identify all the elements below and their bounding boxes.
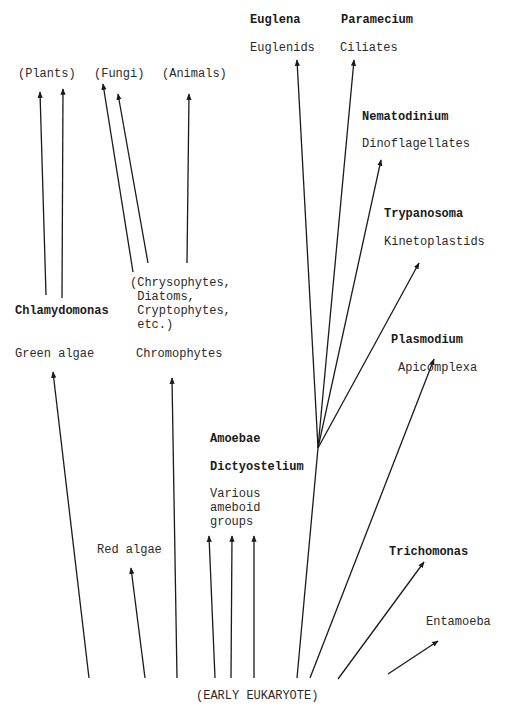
label-animals: (Animals)	[162, 67, 227, 81]
label-entamoeba: Entamoeba	[426, 615, 491, 629]
label-plasmodium: Plasmodium	[391, 333, 463, 347]
label-green-algae: Green algae	[15, 347, 94, 361]
label-amoebae: Amoebae	[210, 432, 260, 446]
branch-dinoflagellates	[318, 160, 381, 448]
branch-fungi-2	[118, 94, 148, 263]
branch-animals	[187, 94, 189, 263]
branch-plants-2	[62, 89, 63, 298]
branch-ameboid-1	[209, 536, 215, 678]
branch-chromophytes	[172, 378, 177, 678]
label-paramecium: Paramecium	[341, 13, 413, 27]
label-chlamydomonas: Chlamydomonas	[15, 304, 109, 318]
label-kinetoplastids: Kinetoplastids	[384, 235, 485, 249]
branch-plants-1	[40, 92, 46, 295]
label-trichomonas: Trichomonas	[389, 545, 468, 559]
label-euglenids: Euglenids	[250, 41, 315, 55]
label-ciliates: Ciliates	[340, 41, 398, 55]
branch-euglenids	[297, 60, 318, 448]
branch-fungi-1	[103, 84, 133, 272]
branch-entamoeba	[388, 641, 438, 674]
label-trypanosoma: Trypanosoma	[384, 207, 463, 221]
branch-red-algae	[131, 568, 145, 678]
branch-green-algae	[53, 372, 89, 678]
trunk-to-junction	[297, 448, 318, 678]
branch-apicomplexa	[310, 359, 434, 678]
label-chromophytes: Chromophytes	[136, 347, 222, 361]
label-plants: (Plants)	[18, 67, 76, 81]
label-root: (EARLY EUKARYOTE)	[196, 689, 318, 703]
phylogenetic-tree-diagram: (Plants) (Fungi) (Animals) Euglena Eugle…	[0, 0, 508, 713]
branch-ameboid-2	[231, 536, 232, 678]
label-ameboid-groups: Various ameboid groups	[210, 487, 260, 529]
label-dictyostelium: Dictyostelium	[210, 460, 304, 474]
branch-ciliates	[318, 60, 354, 448]
label-fungi: (Fungi)	[94, 67, 144, 81]
label-red-algae: Red algae	[97, 543, 162, 557]
label-euglena: Euglena	[250, 13, 300, 27]
branch-trichomonas	[338, 562, 424, 679]
label-apicomplexa: Apicomplexa	[398, 361, 477, 375]
label-nematodinium: Nematodinium	[362, 110, 448, 124]
label-chromophytes-note: (Chrysophytes, Diatoms, Cryptophytes, et…	[130, 276, 231, 332]
label-dinoflagellates: Dinoflagellates	[362, 137, 470, 151]
